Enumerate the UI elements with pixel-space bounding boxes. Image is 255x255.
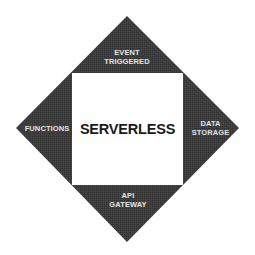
- section-bottom-line1: API: [88, 191, 168, 200]
- section-bottom: API GATEWAY: [88, 191, 168, 209]
- section-left-line1: FUNCTIONS: [18, 124, 76, 133]
- section-right-line2: STORAGE: [183, 128, 238, 137]
- section-top-line2: TRIGGERED: [87, 57, 167, 66]
- title-text: SERVERLESS: [80, 121, 175, 137]
- center-title: SERVERLESS: [72, 73, 183, 185]
- section-right: DATA STORAGE: [183, 119, 238, 137]
- section-top-line1: EVENT: [87, 48, 167, 57]
- section-top: EVENT TRIGGERED: [87, 48, 167, 66]
- section-bottom-line2: GATEWAY: [88, 200, 168, 209]
- section-left: FUNCTIONS: [18, 124, 76, 133]
- section-right-line1: DATA: [183, 119, 238, 128]
